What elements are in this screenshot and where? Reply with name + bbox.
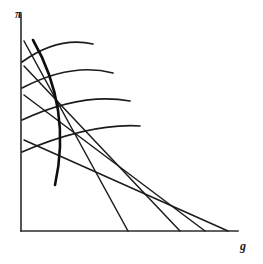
- indifference-curve-1: [22, 42, 93, 62]
- budget-line-1: [24, 41, 128, 231]
- budget-lines-group: [24, 41, 228, 231]
- diagram-canvas: [0, 0, 263, 264]
- indifference-curve-4: [22, 126, 140, 152]
- y-axis-label: π: [15, 8, 22, 20]
- x-axis-label: g: [240, 240, 246, 252]
- budget-line-2: [24, 66, 180, 231]
- figure-root: π g: [0, 0, 263, 264]
- indifference-curves-group: [22, 42, 140, 152]
- indifference-curve-3: [22, 99, 130, 120]
- budget-line-3: [24, 95, 205, 231]
